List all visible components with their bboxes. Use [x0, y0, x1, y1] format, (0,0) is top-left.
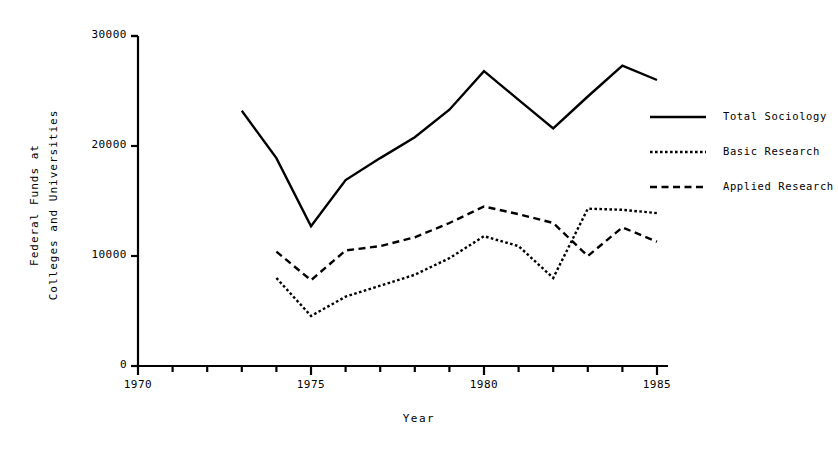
- legend-sample-lines: [650, 117, 706, 187]
- y-axis-title-wrap: Federal Funds at Colleges and Universiti…: [14, 60, 74, 350]
- legend-label-2: Applied Research: [723, 180, 834, 192]
- chart-figure: Federal Funds at Colleges and Universiti…: [0, 0, 838, 454]
- x-axis-ticks: [138, 366, 657, 375]
- x-tick-label: 1970: [113, 378, 163, 391]
- series-line-2: [276, 207, 657, 281]
- series-line-0: [242, 66, 657, 227]
- x-tick-label: 1985: [632, 378, 682, 391]
- x-tick-label: 1980: [459, 378, 509, 391]
- y-axis-title-line1: Federal Funds at: [28, 144, 41, 266]
- y-tick-label: 0: [55, 358, 127, 371]
- legend-label-0: Total Sociology: [723, 110, 827, 122]
- y-tick-label: 20000: [55, 138, 127, 151]
- legend-label-1: Basic Research: [723, 145, 820, 157]
- x-tick-label: 1975: [286, 378, 336, 391]
- axis-lines: [131, 36, 668, 366]
- y-tick-label: 30000: [55, 28, 127, 41]
- x-axis-title: Year: [0, 412, 838, 425]
- y-tick-label: 10000: [55, 248, 127, 261]
- data-series-group: [242, 66, 657, 316]
